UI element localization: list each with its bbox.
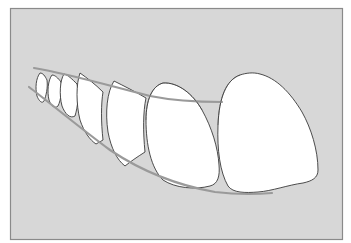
- dental-diagram: Dental arch teeth illustration: [0, 0, 351, 243]
- diagram-svg: [0, 0, 351, 243]
